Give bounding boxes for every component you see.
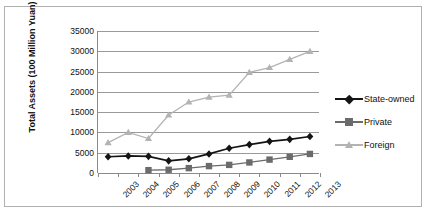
x-axis-tick-label: 2003 [121, 179, 141, 199]
data-point-marker [286, 136, 293, 144]
data-point-marker [226, 144, 233, 152]
x-axis-tick-label: 2009 [242, 179, 262, 199]
x-axis-tick [199, 173, 200, 177]
legend-marker [335, 115, 363, 129]
y-axis-tick-label: 30000 [70, 46, 94, 56]
x-axis-tick-label: 2006 [181, 179, 201, 199]
x-axis-tick-label: 2010 [262, 179, 282, 199]
x-axis-tick-label: 2007 [201, 179, 221, 199]
x-axis-tick-label: 2008 [222, 179, 242, 199]
data-point-marker [105, 153, 112, 161]
legend-label: Foreign [364, 140, 395, 150]
data-point-marker [165, 157, 172, 165]
series-state-owned [105, 133, 314, 165]
x-axis-tick-label: 2011 [282, 179, 302, 199]
legend-symbol-diamond [345, 94, 354, 103]
data-point-marker [266, 156, 272, 162]
y-axis-tick-label: 35000 [70, 26, 94, 36]
x-axis-tick [98, 173, 99, 177]
x-axis-tick [118, 173, 119, 177]
y-axis-tick-label: 5000 [75, 148, 94, 158]
x-axis-tick [320, 173, 321, 177]
data-point-marker [165, 167, 171, 173]
x-axis-tick [300, 173, 301, 177]
plot-area: 35000300002500020000150001000050000 2003… [97, 31, 319, 173]
legend-item-state-owned[interactable]: State-owned [335, 87, 432, 110]
data-point-marker [307, 133, 314, 141]
y-axis-tick-label: 15000 [70, 107, 94, 117]
legend-item-foreign[interactable]: Foreign [335, 133, 432, 156]
legend-symbol-triangle [345, 141, 353, 148]
data-point-marker [306, 48, 313, 54]
x-axis-tick-label: 2012 [302, 179, 322, 199]
x-axis-tick-label: 2005 [161, 179, 181, 199]
data-point-marker [206, 150, 213, 158]
chart-legend: State-ownedPrivateForeign [335, 87, 432, 156]
data-point-marker [246, 141, 253, 149]
data-point-marker [125, 152, 132, 160]
x-axis-tick-label: 2004 [141, 179, 161, 199]
chart-frame: Total Assets (100 Million Yuan) 35000300… [4, 6, 422, 207]
data-point-marker [145, 167, 151, 173]
data-point-marker [185, 155, 192, 163]
legend-label: State-owned [364, 94, 415, 104]
legend-marker [335, 92, 363, 106]
data-point-marker [104, 139, 111, 145]
data-point-marker [145, 153, 152, 161]
x-axis-tick [239, 173, 240, 177]
data-point-marker [165, 111, 172, 117]
legend-item-private[interactable]: Private [335, 110, 432, 133]
y-axis-tick-label: 0 [89, 168, 94, 178]
y-axis-tick-label: 20000 [70, 87, 94, 97]
x-axis-tick [179, 173, 180, 177]
legend-label: Private [364, 117, 392, 127]
x-axis-tick [138, 173, 139, 177]
series-foreign [104, 48, 313, 145]
data-point-marker [206, 163, 212, 169]
x-axis-tick [280, 173, 281, 177]
y-axis-title: Total Assets (100 Million Yuan) [27, 0, 37, 142]
data-point-marker [226, 162, 232, 168]
legend-symbol-square [345, 118, 353, 126]
y-axis-tick-label: 10000 [70, 127, 94, 137]
data-point-marker [246, 159, 252, 165]
gridline [98, 173, 319, 174]
data-point-marker [125, 129, 132, 135]
plot-wrapper: 35000300002500020000150001000050000 2003… [97, 25, 322, 177]
data-point-marker [287, 154, 293, 160]
x-axis-tick [259, 173, 260, 177]
legend-marker [335, 138, 363, 152]
x-axis-tick [159, 173, 160, 177]
series-layer [98, 31, 320, 173]
data-point-marker [186, 165, 192, 171]
x-axis-tick-label: 2013 [322, 179, 342, 199]
data-point-marker [266, 138, 273, 146]
data-point-marker [307, 151, 313, 157]
x-axis-tick [219, 173, 220, 177]
y-axis-tick-label: 25000 [70, 67, 94, 77]
